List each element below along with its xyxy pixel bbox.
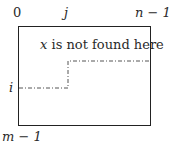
staircase-boundary [0, 0, 173, 146]
row-label-i: i [9, 81, 13, 94]
matrix-diagram: 0 j n − 1 x is not found here i m − 1 [0, 0, 173, 146]
row-label-m-minus-1: m − 1 [2, 130, 42, 143]
